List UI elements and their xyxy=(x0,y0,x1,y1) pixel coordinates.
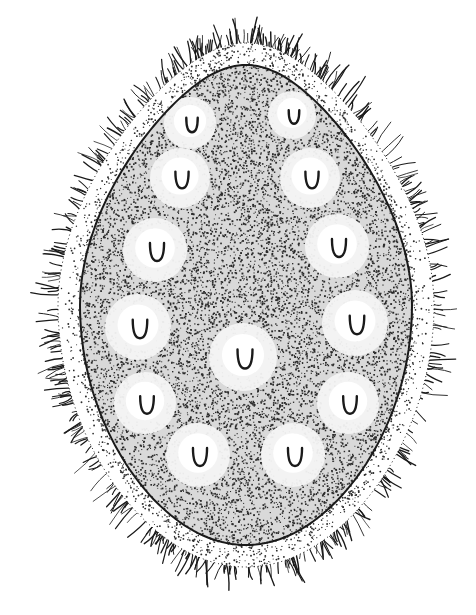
vacuole-spot xyxy=(114,372,176,434)
vacuole-spot xyxy=(261,423,325,487)
vacuole-spot xyxy=(305,214,369,278)
vacuole-spot xyxy=(280,148,340,208)
vacuole-spot xyxy=(209,323,277,391)
vacuole-spot xyxy=(166,423,230,487)
vacuole-spot xyxy=(105,294,171,360)
vacuole-spot xyxy=(268,91,316,139)
ciliated-organism-drawing xyxy=(0,0,476,615)
illustration xyxy=(0,0,476,615)
vacuole-spot xyxy=(150,148,210,208)
vacuole-spot xyxy=(322,290,388,356)
vacuole-spot xyxy=(123,218,187,282)
vacuole-spot xyxy=(317,372,379,434)
